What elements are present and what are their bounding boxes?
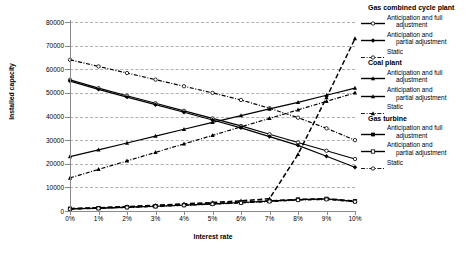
- y-tick-mark: [65, 22, 70, 23]
- series-line: [70, 60, 355, 140]
- legend-item[interactable]: Anticipation andpartial adjustment: [360, 141, 474, 156]
- data-point-marker: [324, 154, 328, 158]
- data-point-marker: [371, 132, 375, 136]
- y-tick-label: 10000: [22, 184, 64, 191]
- data-point-marker: [97, 207, 100, 210]
- legend-swatch: [360, 69, 386, 78]
- x-tick-label: 4%: [172, 215, 196, 223]
- data-point-marker: [296, 198, 299, 201]
- data-point-marker: [353, 157, 356, 160]
- legend-item-label: Anticipation and fulladjustment: [386, 124, 442, 139]
- legend-item[interactable]: Static: [360, 48, 474, 58]
- data-point-marker: [325, 198, 328, 201]
- y-axis-line: [70, 20, 71, 213]
- data-point-marker: [239, 98, 242, 101]
- data-point-marker: [182, 85, 185, 88]
- legend-swatch: [360, 104, 386, 113]
- y-tick-label: 30000: [22, 137, 64, 144]
- legend-swatch: [360, 142, 386, 151]
- data-point-marker: [353, 200, 356, 203]
- series-gas-turbine-static: [68, 198, 356, 211]
- data-point-marker: [154, 78, 157, 81]
- y-tick-mark: [65, 164, 70, 165]
- legend-swatch: [360, 159, 386, 168]
- data-point-marker: [353, 36, 357, 40]
- legend-item-label: Anticipation and fulladjustment: [386, 69, 442, 84]
- legend-group-heading: Gas combined cycle plant: [368, 4, 474, 13]
- data-point-marker: [296, 116, 299, 119]
- data-point-marker: [267, 116, 271, 120]
- legend-item-label: Anticipation andpartial adjustment: [386, 31, 446, 46]
- y-tick-mark: [65, 140, 70, 141]
- x-tick-label: 2%: [115, 215, 139, 223]
- x-tick-label: 5%: [201, 215, 225, 223]
- y-tick-mark: [65, 46, 70, 47]
- y-tick-mark: [65, 117, 70, 118]
- data-point-marker: [325, 149, 328, 152]
- plot-area: [70, 22, 355, 211]
- data-point-marker: [125, 71, 128, 74]
- legend-item[interactable]: Anticipation andpartial adjustment: [360, 31, 474, 46]
- legend-item[interactable]: Anticipation and fulladjustment: [360, 69, 474, 84]
- x-tick-label: 0%: [58, 215, 82, 223]
- chart-container: 0100002000030000400005000060000700008000…: [0, 0, 474, 261]
- legend-swatch: [360, 31, 386, 40]
- y-axis-title: Installed capacity: [8, 37, 15, 147]
- x-tick-label: 7%: [258, 215, 282, 223]
- y-tick-label: 40000: [22, 113, 64, 120]
- legend-group: Coal plantAnticipation and fulladjustmen…: [360, 59, 474, 112]
- data-point-marker: [296, 152, 300, 156]
- data-point-marker: [182, 204, 185, 207]
- data-point-marker: [353, 86, 357, 90]
- series-coal-plant-static: [68, 91, 357, 180]
- x-tick-label: 1%: [87, 215, 111, 223]
- legend-item-label: Anticipation andpartial adjustment: [386, 141, 446, 156]
- data-point-marker: [268, 200, 271, 203]
- legend-item-label: Anticipation andpartial adjustment: [386, 86, 446, 101]
- chart-legend: Gas combined cycle plantAnticipation and…: [360, 4, 474, 256]
- legend-item[interactable]: Anticipation and fulladjustment: [360, 14, 474, 29]
- data-point-marker: [371, 38, 375, 42]
- data-point-marker: [353, 91, 357, 95]
- y-tick-mark: [65, 93, 70, 94]
- y-tick-label: 60000: [22, 66, 64, 73]
- y-tick-label: 0: [22, 208, 64, 215]
- legend-swatch: [360, 14, 386, 23]
- data-point-marker: [353, 138, 356, 141]
- data-point-marker: [96, 167, 100, 171]
- data-point-marker: [371, 56, 374, 59]
- data-point-marker: [353, 165, 357, 169]
- data-point-marker: [97, 65, 100, 68]
- x-tick-label: 8%: [286, 215, 310, 223]
- legend-group: Gas turbineAnticipation and fulladjustme…: [360, 115, 474, 168]
- x-tick-label: 6%: [229, 215, 253, 223]
- data-point-marker: [325, 127, 328, 130]
- y-tick-label: 50000: [22, 89, 64, 96]
- y-tick-label: 80000: [22, 19, 64, 26]
- legend-group: Gas combined cycle plantAnticipation and…: [360, 4, 474, 57]
- legend-item-label: Static: [386, 48, 403, 56]
- x-tick-label: 9%: [315, 215, 339, 223]
- data-point-marker: [371, 150, 374, 153]
- data-point-marker: [211, 91, 214, 94]
- y-tick-mark: [65, 187, 70, 188]
- legend-item[interactable]: Static: [360, 103, 474, 113]
- data-point-marker: [125, 206, 128, 209]
- data-point-marker: [371, 22, 374, 25]
- x-axis-title: Interest rate: [128, 233, 298, 240]
- data-point-marker: [371, 167, 374, 170]
- legend-item[interactable]: Anticipation and fulladjustment: [360, 124, 474, 139]
- series-canvas: [70, 22, 355, 211]
- y-tick-label: 70000: [22, 42, 64, 49]
- data-point-marker: [211, 202, 214, 205]
- legend-item-label: Static: [386, 103, 403, 111]
- legend-item[interactable]: Static: [360, 159, 474, 169]
- data-point-marker: [239, 201, 242, 204]
- legend-item-label: Anticipation and fulladjustment: [386, 14, 442, 29]
- y-tick-mark: [65, 69, 70, 70]
- legend-item[interactable]: Anticipation andpartial adjustment: [360, 86, 474, 101]
- x-tick-label: 3%: [144, 215, 168, 223]
- legend-swatch: [360, 48, 386, 57]
- legend-swatch: [360, 125, 386, 134]
- series-gas-combined-cycle-plant-static: [68, 58, 356, 142]
